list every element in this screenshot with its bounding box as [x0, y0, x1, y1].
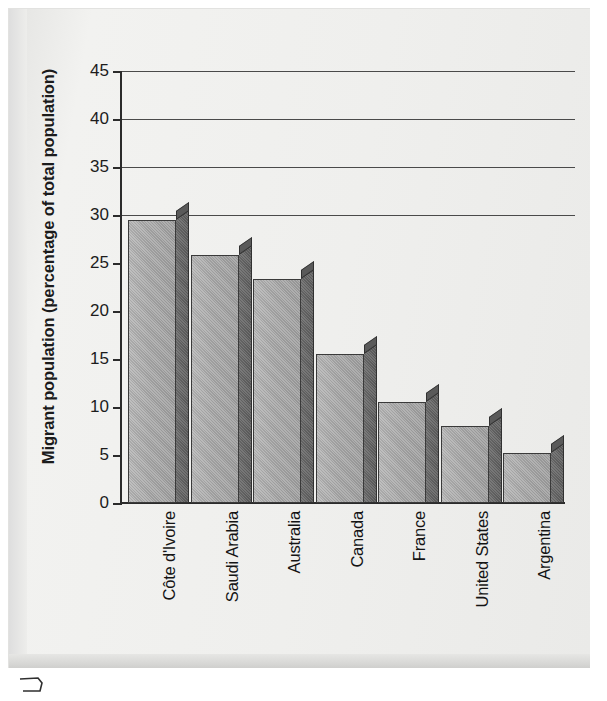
bar-front-face — [441, 426, 489, 503]
y-tick-label-40: 40 — [90, 109, 109, 129]
bar-4[interactable] — [316, 345, 377, 503]
category-label-3: Australia — [285, 511, 304, 573]
y-tick-label-0: 0 — [100, 493, 109, 513]
gridline-45 — [122, 71, 575, 72]
y-tick-label-15: 15 — [90, 349, 109, 369]
tick-mark — [113, 215, 122, 217]
bar-side-face — [176, 211, 189, 503]
tick-mark — [113, 71, 122, 73]
tick-mark — [113, 407, 122, 409]
bar-side-face — [301, 270, 314, 503]
category-label-4: Canada — [348, 511, 367, 568]
category-label-1: Côte d'Ivoire — [160, 511, 179, 601]
bar-7[interactable] — [503, 444, 564, 503]
bar-side-face — [239, 246, 252, 503]
bar-3[interactable] — [253, 270, 314, 503]
y-tick-label-25: 25 — [90, 253, 109, 273]
bar-1[interactable] — [128, 211, 189, 503]
category-label-2: Saudi Arabia — [223, 511, 242, 602]
tick-mark — [113, 455, 122, 457]
bar-front-face — [316, 354, 364, 503]
bar-side-face — [364, 345, 377, 503]
scan-artifact-mark — [18, 676, 44, 694]
x-axis-category-labels: Côte d'IvoireSaudi ArabiaAustraliaCanada… — [120, 505, 575, 655]
bar-front-face — [253, 279, 301, 503]
y-tick-label-30: 30 — [90, 205, 109, 225]
tick-mark — [113, 311, 122, 313]
bar-front-face — [378, 402, 426, 503]
category-label-7: Argentina — [535, 511, 554, 580]
bar-2[interactable] — [191, 246, 252, 503]
plot-area: 051015202530354045 — [120, 71, 575, 503]
bar-front-face — [191, 255, 239, 503]
y-tick-label-10: 10 — [90, 397, 109, 417]
tick-mark — [113, 263, 122, 265]
bar-5[interactable] — [378, 393, 439, 503]
y-tick-label-5: 5 — [100, 445, 109, 465]
category-label-5: France — [410, 511, 429, 561]
bar-front-face — [128, 220, 176, 503]
category-label-6: United States — [473, 511, 492, 607]
tick-mark — [113, 167, 122, 169]
tick-mark — [113, 359, 122, 361]
bar-side-face — [426, 393, 439, 503]
y-tick-label-20: 20 — [90, 301, 109, 321]
panel-left-shading — [9, 9, 27, 668]
gridline-30 — [122, 215, 575, 216]
bar-side-face — [489, 417, 502, 503]
gridline-35 — [122, 167, 575, 168]
bar-6[interactable] — [441, 417, 502, 503]
y-tick-label-45: 45 — [90, 61, 109, 81]
gridline-40 — [122, 119, 575, 120]
bar-side-face — [551, 444, 564, 503]
y-axis-line — [120, 71, 122, 503]
figure-panel: Migrant population (percentage of total … — [8, 8, 590, 668]
bar-front-face — [503, 453, 551, 503]
tick-mark — [113, 119, 122, 121]
y-axis-title: Migrant population (percentage of total … — [39, 32, 58, 502]
y-tick-label-35: 35 — [90, 157, 109, 177]
panel-bottom-shading — [9, 654, 590, 668]
